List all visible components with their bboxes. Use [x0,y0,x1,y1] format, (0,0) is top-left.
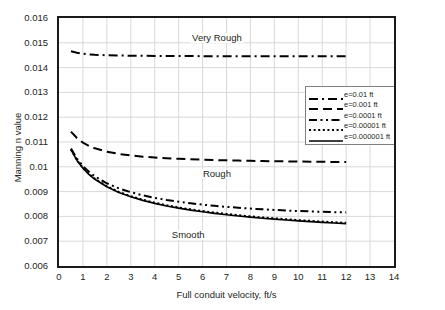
x-axis-title: Full conduit velocity, ft/s [57,289,396,300]
legend-swatch-icon [309,111,343,121]
y-tick-label: 0.008 [24,212,48,222]
x-tick-label: 4 [152,272,157,282]
plot-annotation-rough: Rough [201,169,233,179]
y-tick-label: 0.015 [24,38,48,48]
x-tick-label: 8 [248,272,253,282]
x-tick-label: 12 [341,272,352,282]
y-tick-label: 0.01 [30,162,49,172]
x-tick-label: 6 [200,272,205,282]
legend-item-3: e=0.00001 ft [309,121,396,131]
y-tick-label: 0.007 [24,236,48,246]
x-tick-label: 7 [224,272,229,282]
legend-label: e=0.01 ft [344,91,373,99]
x-tick-label: 5 [176,272,181,282]
x-axis-tick-labels: 01234567891011121314 [57,272,396,286]
y-tick-label: 0.009 [24,187,48,197]
x-tick-label: 0 [56,272,61,282]
legend-label: e=0.000001 ft [344,133,390,141]
plot-annotation-very-rough: Very Rough [190,33,244,43]
legend-swatch-icon [309,100,343,110]
x-tick-label: 1 [80,272,85,282]
x-tick-label: 13 [365,272,376,282]
legend-swatch-icon [309,90,343,100]
y-tick-label: 0.014 [24,63,48,73]
x-tick-label: 2 [104,272,109,282]
x-tick-label: 3 [128,272,133,282]
y-tick-label: 0.006 [24,261,48,271]
plot-area: Very RoughRoughSmooth e=0.01 fte=0.001 f… [57,16,396,268]
y-tick-label: 0.016 [24,13,48,23]
x-tick-label: 9 [272,272,277,282]
x-tick-label: 10 [293,272,304,282]
legend-label: e=0.00001 ft [344,122,386,130]
legend-label: e=0.001 ft [344,101,378,109]
y-tick-label: 0.012 [24,112,48,122]
legend-item-4: e=0.000001 ft [309,132,396,142]
y-axis-title: Manning n value [12,83,23,213]
y-axis-tick-labels: 0.0060.0070.0080.0090.010.0110.0120.0130… [0,16,53,268]
y-tick-label: 0.013 [24,88,48,98]
manning-n-chart: 0.0060.0070.0080.0090.010.0110.0120.0130… [0,0,445,310]
x-tick-label: 14 [389,272,400,282]
y-tick-label: 0.011 [25,137,48,147]
legend-item-0: e=0.01 ft [309,90,396,100]
legend-swatch-icon [309,132,343,142]
x-tick-label: 11 [317,272,327,282]
legend: e=0.01 fte=0.001 fte=0.0001 fte=0.00001 … [305,86,396,145]
plot-annotation-smooth: Smooth [170,230,207,240]
legend-item-1: e=0.001 ft [309,100,396,110]
legend-label: e=0.0001 ft [344,112,382,120]
legend-swatch-icon [309,121,343,131]
legend-item-2: e=0.0001 ft [309,111,396,121]
